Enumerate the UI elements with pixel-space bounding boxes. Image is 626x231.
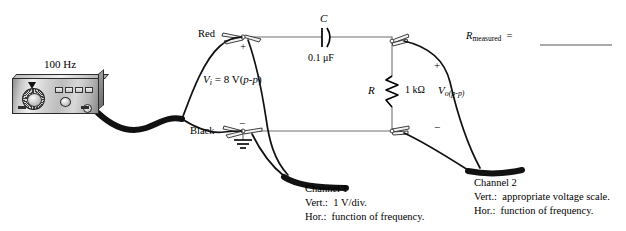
channel1-vert-value: 1 V/div. [333,197,367,208]
output-polarity-plus: + [434,60,440,71]
probe-channel2-tip [404,41,480,168]
channel2-vert-key: Vert.: [474,191,497,202]
measured-resistance-label: Rmeasured = [466,31,513,42]
generator-button-4[interactable] [85,87,93,93]
black-terminal-label: Black [190,126,215,137]
channel1-vertical-setting: Vert.: 1 V/div. [305,198,367,209]
resistor-zigzag [386,76,398,107]
capacitor-plate-curved [327,28,330,47]
channel2-hor-key: Hor.: [474,205,495,216]
probe-channel2-ground [404,133,468,170]
black-terminal-polarity: − [239,118,245,129]
resistor-designator: R [368,85,375,96]
amplitude-knob[interactable] [60,97,71,107]
channel2-vert-value: appropriate voltage scale. [502,191,610,202]
resistor-value: 1 kΩ [405,85,425,95]
resistor-symbol [386,76,398,107]
channel2-horizontal-setting: Hor.: function of frequency. [474,206,593,217]
capacitor-symbol [322,28,330,47]
channel1-horizontal-setting: Hor.: function of frequency. [305,212,424,223]
alligator-clip-output-plus [390,34,409,46]
channel1-title: Channel 1 [305,184,348,195]
generator-button-3[interactable] [75,87,83,93]
measured-resistance-subscript: measured [472,34,501,43]
clip-black-jaw-right [243,128,262,134]
generator-foot-left [18,106,26,109]
clip-out-minus-pivot [390,129,394,133]
input-voltage-subscript: i [210,78,212,87]
clip-out-plus-pivot [390,39,394,43]
ground-symbol [234,140,252,148]
frequency-label: 100 Hz [44,59,76,70]
channel2-title: Channel 2 [474,178,517,189]
output-voltage-subscript: o(p-p) [445,89,465,98]
channel1-hor-value: function of frequency. [332,211,425,222]
red-terminal-polarity: + [240,41,246,52]
capacitor-designator: C [320,13,327,24]
input-voltage-symbol: V [203,73,210,85]
input-voltage-value: 8 V( [224,73,244,85]
generator-button-1[interactable] [55,87,63,93]
output-voltage-symbol: V [438,84,445,96]
red-terminal-label: Red [198,29,215,40]
cable-channel2 [468,170,522,174]
capacitor-value: 0.1 μF [308,53,334,63]
probe-channel1-ground [252,134,284,176]
generator-front-panel [12,78,99,114]
input-voltage-label: Vi = 8 V(p-p) [203,74,262,87]
input-voltage-close: ) [258,73,262,85]
channel1-vert-key: Vert.: [305,197,328,208]
channel2-vertical-setting: Vert.: appropriate voltage scale. [474,192,610,203]
channel1-hor-key: Hor.: [305,211,326,222]
generator-button-2[interactable] [65,87,73,93]
output-voltage-label: Vo(p-p) [438,85,465,98]
probe-channel1-tip [248,40,288,175]
channel2-hor-value: function of frequency. [501,205,594,216]
function-generator[interactable] [12,78,111,122]
output-polarity-minus: − [434,122,440,133]
input-voltage-pp: p-p [243,73,258,85]
measured-resistance-equals: = [507,30,513,41]
circuit-diagram-figure: 100 Hz Red + Black − Vi = 8 V(p-p) C 0.1… [0,0,626,231]
generator-foot-right [81,106,89,109]
generator-button-row[interactable] [55,87,93,93]
input-voltage-equals: = [215,73,221,85]
dial-hub [27,93,42,107]
